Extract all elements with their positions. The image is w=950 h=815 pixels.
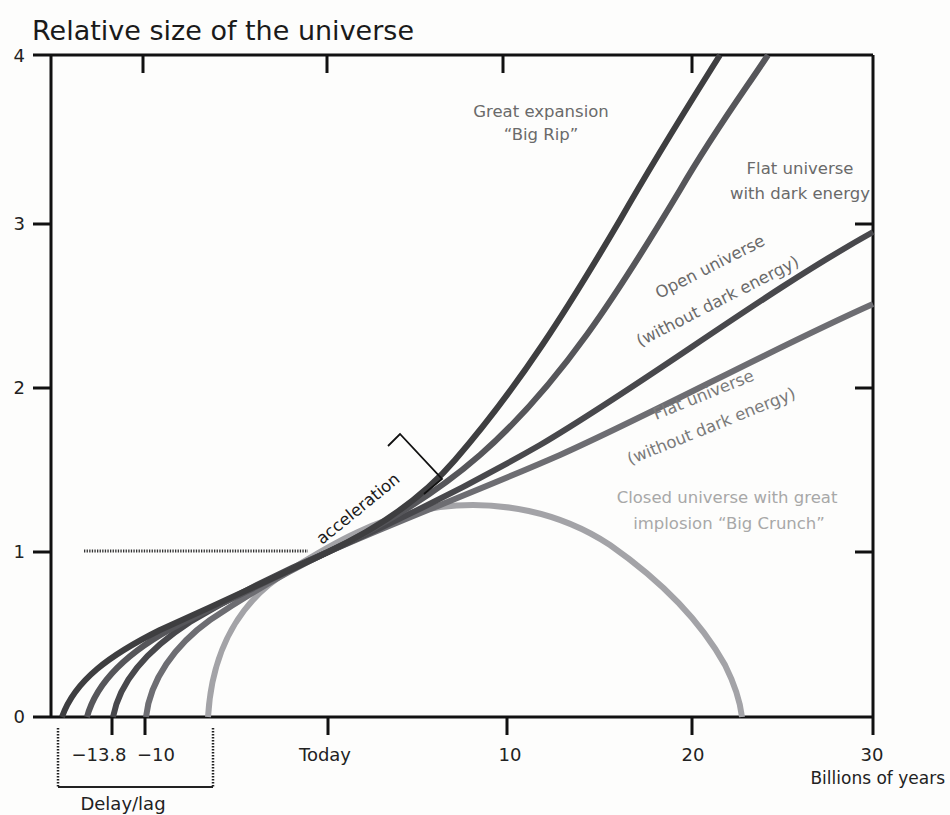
y-tick-3: 3	[14, 213, 25, 234]
big-rip-label-line2: “Big Rip”	[504, 125, 579, 144]
y-tick-0: 0	[14, 706, 25, 727]
delay-label: Delay/lag	[80, 793, 165, 814]
y-tick-2: 2	[14, 377, 25, 398]
x-tick-labels: −13.8 −10 Today 10 20 30 Billions of yea…	[71, 744, 945, 788]
x-tick-20: 20	[682, 744, 705, 765]
y-tick-1: 1	[14, 541, 25, 562]
x-axis-unit: Billions of years	[810, 768, 945, 788]
flat-dark-energy-label-line1: Flat universe	[747, 159, 854, 178]
x-tick-today: Today	[298, 744, 351, 765]
closed-universe-label-line1: Closed universe with great	[617, 488, 838, 507]
flat-dark-energy-label-line2: with dark energy	[730, 184, 870, 203]
chart-title: Relative size of the universe	[32, 15, 414, 46]
x-tick-30: 30	[861, 744, 884, 765]
curve-big-rip	[62, 55, 720, 717]
x-tick-minus-10: −10	[137, 744, 175, 765]
curves	[62, 55, 873, 717]
closed-universe-label-line2: implosion “Big Crunch”	[633, 514, 825, 533]
x-tick-10: 10	[499, 744, 522, 765]
curve-closed-big-crunch	[208, 505, 742, 717]
x-ticks	[112, 55, 873, 735]
y-tick-labels: 0 1 2 3 4	[14, 45, 25, 727]
big-rip-label-line1: Great expansion	[473, 102, 609, 121]
universe-size-chart: Relative size of the universe 0 1 2 3 4	[0, 0, 950, 815]
y-tick-4: 4	[14, 45, 25, 66]
x-tick-minus-13-8: −13.8	[71, 744, 126, 765]
